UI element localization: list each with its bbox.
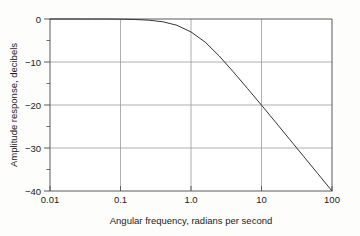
x-tick-label-0.01: 0.01	[41, 194, 60, 205]
y-tick-label-0: 0	[36, 14, 41, 25]
y-tick-label--10: −10	[25, 57, 41, 68]
x-axis-title: Angular frequency, radians per second	[110, 215, 272, 226]
y-tick-label--40: −40	[25, 186, 41, 197]
y-tick-label--20: −20	[25, 100, 41, 111]
x-tick-label-10: 10	[256, 194, 267, 205]
y-tick-label--30: −30	[25, 143, 41, 154]
bode-magnitude-plot: 0 −10 −20 −30 −40 0.01 0.1 1.0 10 100 An…	[0, 0, 360, 236]
x-tick-label-1.0: 1.0	[184, 194, 197, 205]
y-axis-title: Amplitude response, decibels	[8, 43, 19, 167]
x-tick-label-0.1: 0.1	[114, 194, 127, 205]
chart-page: 0 −10 −20 −30 −40 0.01 0.1 1.0 10 100 An…	[0, 0, 360, 236]
x-tick-label-100: 100	[324, 194, 340, 205]
